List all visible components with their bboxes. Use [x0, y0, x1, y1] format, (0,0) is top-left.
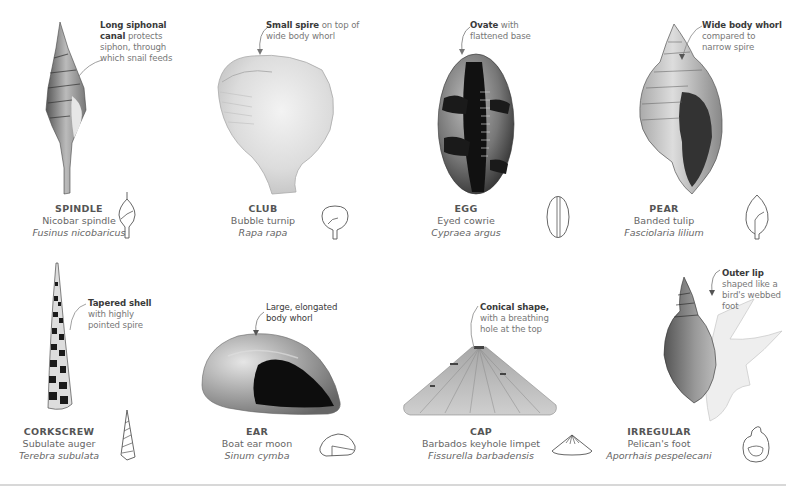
irregular-label: IRREGULAR Pelican's foot Aporrhais pespe… [584, 425, 734, 462]
common-name: Banded tulip [589, 215, 739, 227]
annotation-bold: Wide body whorl [702, 20, 782, 30]
cap-annotation: Conical shape, with a breathing hole at … [480, 302, 552, 335]
club-annotation: Small spire on top of wide body whorl [266, 20, 366, 42]
annotation-pointer-line [464, 304, 480, 350]
egg-outline-icon [546, 195, 570, 239]
latin-name: Fissurella barbadensis [406, 450, 556, 462]
annotation-pointer-line [678, 24, 704, 60]
annotation-text: shaped like a bird's webbed foot [722, 279, 781, 311]
spindle-shell-image [28, 18, 108, 198]
irregular-annotation: Outer lip shaped like a bird's webbed fo… [722, 268, 786, 312]
annotation-pointer-arrow [252, 310, 266, 338]
latin-name: Fasciolaria lilium [589, 227, 739, 239]
annotation-text: Large, elongated body whorl [266, 302, 337, 323]
pear-annotation: Wide body whorl compared to narrow spire [702, 20, 786, 53]
common-name: Bubble turnip [188, 215, 338, 227]
pear-label: PEAR Banded tulip Fasciolaria lilium [589, 202, 739, 239]
irregular-outline-icon [741, 424, 771, 464]
annotation-bold: Small spire [266, 20, 319, 30]
corkscrew-shell-image [44, 262, 74, 412]
annotation-bold: Ovate [470, 20, 498, 30]
annotation-pointer-line [66, 302, 88, 332]
shell-type: PEAR [589, 202, 739, 215]
spindle-outline-icon [117, 191, 137, 239]
corkscrew-annotation: Tapered shell with highly pointed spire [88, 298, 158, 331]
annotation-pointer-arrow [706, 268, 722, 298]
egg-annotation: Ovate with flattened base [470, 20, 540, 42]
cap-label: CAP Barbados keyhole limpet Fissurella b… [406, 425, 556, 462]
ear-annotation: Large, elongated body whorl [266, 302, 346, 324]
cap-shell-image [400, 345, 560, 417]
shell-type: CLUB [188, 202, 338, 215]
shell-type: EAR [182, 425, 332, 438]
shell-type: EGG [391, 202, 541, 215]
spindle-annotation: Long siphonal canal protects siphon, thr… [100, 20, 175, 64]
corkscrew-outline-icon [119, 409, 137, 461]
common-name: Barbados keyhole limpet [406, 438, 556, 450]
common-name: Boat ear moon [182, 438, 332, 450]
egg-shell-image [436, 52, 516, 197]
shell-type: CORKSCREW [0, 425, 134, 438]
club-label: CLUB Bubble turnip Rapa rapa [188, 202, 338, 239]
club-shell-image [212, 52, 337, 197]
shell-type: CAP [406, 425, 556, 438]
annotation-bold: Tapered shell [88, 298, 151, 308]
ear-label: EAR Boat ear moon Sinum cymba [182, 425, 332, 462]
latin-name: Rapa rapa [188, 227, 338, 239]
latin-name: Terebra subulata [0, 450, 134, 462]
common-name: Subulate auger [0, 438, 134, 450]
common-name: Pelican's foot [584, 438, 734, 450]
corkscrew-label: CORKSCREW Subulate auger Terebra subulat… [0, 425, 134, 462]
egg-label: EGG Eyed cowrie Cypraea argus [391, 202, 541, 239]
annotation-bold: Conical shape, [480, 302, 549, 312]
annotation-text: with a breathing hole at the top [480, 313, 549, 334]
annotation-text: with highly pointed spire [88, 309, 143, 330]
latin-name: Aporrhais pespelecani [584, 450, 734, 462]
shell-type: IRREGULAR [584, 425, 734, 438]
common-name: Eyed cowrie [391, 215, 541, 227]
ear-shell-image [198, 330, 348, 420]
annotation-bold: Outer lip [722, 268, 764, 278]
club-outline-icon [320, 204, 350, 240]
latin-name: Sinum cymba [182, 450, 332, 462]
pear-outline-icon [744, 194, 770, 240]
ear-outline-icon [318, 432, 358, 458]
annotation-text: compared to narrow spire [702, 31, 755, 52]
latin-name: Cypraea argus [391, 227, 541, 239]
